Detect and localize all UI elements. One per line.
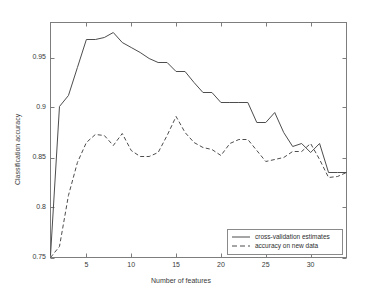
y-tick-label: 0.8 — [0, 203, 46, 210]
series-line-1 — [51, 33, 347, 256]
legend-line-dashed-icon — [231, 242, 251, 250]
x-tick-label: 10 — [119, 261, 143, 268]
legend-line-solid-icon — [231, 233, 251, 241]
x-tick-label: 30 — [299, 261, 323, 268]
y-tick-label: 0.95 — [0, 53, 46, 60]
data-series-layer — [51, 33, 347, 258]
y-tick-label: 0.85 — [0, 153, 46, 160]
x-tick-label: 25 — [254, 261, 278, 268]
legend-entry-new-data: accuracy on new data — [231, 241, 339, 250]
legend-label: accuracy on new data — [255, 242, 318, 249]
x-axis-ticks — [87, 23, 312, 258]
legend: cross-validation estimates accuracy on n… — [227, 229, 343, 255]
x-tick-label: 5 — [74, 261, 98, 268]
y-tick-label: 0.9 — [0, 103, 46, 110]
plot-frame — [51, 23, 347, 258]
legend-entry-cross-validation: cross-validation estimates — [231, 232, 339, 241]
y-axis-title: Classification accuracy — [14, 114, 21, 185]
legend-label: cross-validation estimates — [255, 233, 330, 240]
x-tick-label: 20 — [209, 261, 233, 268]
x-axis-title: Number of features — [151, 277, 211, 284]
y-tick-label: 0.75 — [0, 253, 46, 260]
x-tick-label: 15 — [164, 261, 188, 268]
chart-figure: 0.75 0.8 0.85 0.9 0.95 5 10 15 20 25 30 … — [0, 0, 367, 296]
